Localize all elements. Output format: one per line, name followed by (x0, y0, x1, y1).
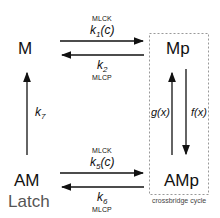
state-M: M (18, 40, 32, 57)
crossbridge-cycle-label: crossbridge cycle (152, 197, 206, 204)
k5-enzyme-label: MLCK (92, 147, 112, 154)
state-Mp: Mp (166, 40, 190, 57)
k6-enzyme-label: MLCP (92, 206, 112, 213)
state-AM: AM (14, 172, 40, 189)
f-rate-label: f(x) (191, 106, 207, 118)
k1-rate-label: k1(c) (90, 24, 114, 41)
k5-rate-label: k5(c) (90, 156, 114, 173)
latch-label: Latch (8, 193, 50, 210)
k7-rate-label: k7 (35, 106, 45, 123)
k1-enzyme-label: MLCK (92, 15, 112, 22)
g-rate-label: g(x) (151, 106, 170, 118)
k2-enzyme-label: MLCP (92, 74, 112, 81)
state-AMp: AMp (164, 172, 199, 189)
